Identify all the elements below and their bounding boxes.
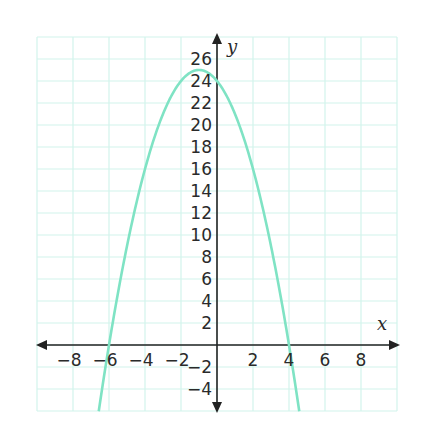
coordinate-plane: −8−6−4−22468 −4−22468101214161820222426 … (0, 0, 423, 437)
y-axis-up-arrow-icon (212, 33, 222, 44)
y-tick-label: 16 (190, 159, 212, 179)
y-tick-label: 6 (201, 269, 212, 289)
y-tick-label: 18 (190, 137, 212, 157)
axes (36, 33, 400, 413)
x-tick-label: −4 (128, 350, 153, 370)
x-tick-label: 8 (356, 350, 367, 370)
x-axis-left-arrow-icon (36, 340, 47, 350)
y-tick-label: 14 (190, 181, 212, 201)
y-tick-label: 8 (201, 247, 212, 267)
y-tick-labels: −4−22468101214161820222426 (187, 49, 212, 399)
x-tick-label: 2 (248, 350, 259, 370)
y-axis-label: y (226, 36, 238, 57)
y-tick-label: 26 (190, 49, 212, 69)
x-tick-label: 4 (284, 350, 295, 370)
x-tick-label: −6 (92, 350, 117, 370)
x-axis-right-arrow-icon (389, 340, 400, 350)
x-tick-label: 6 (320, 350, 331, 370)
y-tick-label: 12 (190, 203, 212, 223)
y-tick-label: 20 (190, 115, 212, 135)
y-tick-label: 10 (190, 225, 212, 245)
y-tick-label: 2 (201, 313, 212, 333)
x-tick-label: −8 (56, 350, 81, 370)
y-tick-label: −4 (187, 379, 212, 399)
x-tick-label: −2 (164, 350, 189, 370)
x-axis-label: x (377, 313, 387, 334)
y-tick-label: 4 (201, 291, 212, 311)
y-tick-label: 22 (190, 93, 212, 113)
y-tick-label: 24 (190, 71, 212, 91)
y-tick-label: −2 (187, 357, 212, 377)
